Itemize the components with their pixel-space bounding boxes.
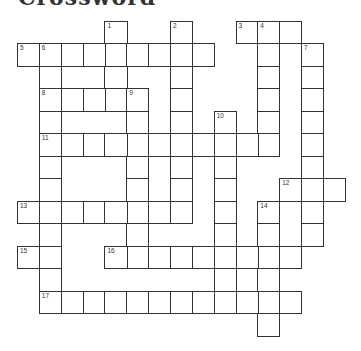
crossword-cell[interactable] xyxy=(257,43,280,67)
crossword-cell[interactable] xyxy=(170,133,193,157)
crossword-cell[interactable] xyxy=(61,43,84,67)
crossword-cell[interactable] xyxy=(126,178,149,202)
crossword-cell[interactable] xyxy=(214,246,237,270)
crossword-cell[interactable] xyxy=(61,88,84,112)
crossword-cell[interactable] xyxy=(61,133,84,157)
crossword-cell[interactable] xyxy=(170,156,193,180)
crossword-cell[interactable] xyxy=(257,313,280,337)
crossword-cell[interactable] xyxy=(214,223,237,247)
crossword-cell[interactable] xyxy=(104,43,127,67)
crossword-cell[interactable] xyxy=(257,246,280,270)
crossword-cell[interactable] xyxy=(214,133,237,157)
crossword-cell[interactable] xyxy=(39,201,62,225)
crossword-cell[interactable] xyxy=(214,178,237,202)
crossword-cell[interactable] xyxy=(39,156,62,180)
crossword-cell[interactable] xyxy=(301,133,324,157)
crossword-cell[interactable] xyxy=(126,201,149,225)
crossword-cell[interactable] xyxy=(126,246,149,270)
crossword-cell[interactable] xyxy=(192,133,215,157)
crossword-cell[interactable]: 2 xyxy=(170,21,193,45)
crossword-cell[interactable] xyxy=(257,268,280,292)
crossword-cell[interactable] xyxy=(301,201,324,225)
crossword-cell[interactable] xyxy=(257,66,280,90)
crossword-cell[interactable] xyxy=(126,223,149,247)
crossword-cell[interactable] xyxy=(192,246,215,270)
crossword-cell[interactable]: 16 xyxy=(104,246,127,270)
crossword-cell[interactable] xyxy=(257,291,280,315)
crossword-cell[interactable]: 15 xyxy=(17,246,40,270)
crossword-cell[interactable] xyxy=(192,291,215,315)
crossword-cell[interactable]: 3 xyxy=(236,21,259,45)
crossword-cell[interactable] xyxy=(170,291,193,315)
crossword-cell[interactable] xyxy=(257,88,280,112)
crossword-cell[interactable] xyxy=(126,156,149,180)
crossword-cell[interactable] xyxy=(39,268,62,292)
crossword-cell[interactable] xyxy=(148,133,171,157)
crossword-cell[interactable]: 5 xyxy=(17,43,40,67)
crossword-cell[interactable] xyxy=(214,201,237,225)
crossword-cell[interactable] xyxy=(39,223,62,247)
crossword-cell[interactable] xyxy=(104,201,127,225)
crossword-cell[interactable]: 17 xyxy=(39,291,62,315)
crossword-cell[interactable] xyxy=(323,178,346,202)
crossword-cell[interactable] xyxy=(279,291,302,315)
crossword-cell[interactable]: 9 xyxy=(126,88,149,112)
crossword-cell[interactable] xyxy=(170,111,193,135)
crossword-cell[interactable] xyxy=(236,133,259,157)
crossword-cell[interactable] xyxy=(170,178,193,202)
crossword-cell[interactable] xyxy=(214,268,237,292)
crossword-cell[interactable]: 8 xyxy=(39,88,62,112)
crossword-cell[interactable] xyxy=(126,43,149,67)
crossword-cell[interactable] xyxy=(104,133,127,157)
crossword-cell[interactable] xyxy=(301,156,324,180)
crossword-cell[interactable] xyxy=(83,43,106,67)
crossword-cell[interactable] xyxy=(257,223,280,247)
crossword-cell[interactable] xyxy=(83,201,106,225)
crossword-cell[interactable] xyxy=(279,21,302,45)
crossword-cell[interactable]: 10 xyxy=(214,111,237,135)
crossword-cell[interactable]: 6 xyxy=(39,43,62,67)
crossword-cell[interactable] xyxy=(39,111,62,135)
crossword-cell[interactable]: 12 xyxy=(279,178,302,202)
crossword-cell[interactable] xyxy=(126,111,149,135)
crossword-cell[interactable] xyxy=(301,88,324,112)
crossword-cell[interactable] xyxy=(61,201,84,225)
crossword-cell[interactable] xyxy=(126,133,149,157)
crossword-cell[interactable] xyxy=(83,291,106,315)
crossword-cell[interactable] xyxy=(170,88,193,112)
crossword-cell[interactable] xyxy=(214,291,237,315)
crossword-cell[interactable] xyxy=(104,88,127,112)
crossword-cell[interactable]: 4 xyxy=(257,21,280,45)
crossword-cell[interactable] xyxy=(39,178,62,202)
crossword-cell[interactable] xyxy=(148,246,171,270)
crossword-cell[interactable]: 1 xyxy=(104,21,127,45)
crossword-cell[interactable] xyxy=(61,291,84,315)
crossword-cell[interactable] xyxy=(236,246,259,270)
crossword-cell[interactable]: 7 xyxy=(301,43,324,67)
crossword-cell[interactable] xyxy=(192,43,215,67)
crossword-cell[interactable]: 13 xyxy=(17,201,40,225)
crossword-cell[interactable] xyxy=(126,291,149,315)
crossword-cell[interactable] xyxy=(170,246,193,270)
crossword-cell[interactable] xyxy=(257,133,280,157)
crossword-cell[interactable] xyxy=(257,111,280,135)
crossword-cell[interactable]: 11 xyxy=(39,133,62,157)
crossword-cell[interactable] xyxy=(301,223,324,247)
crossword-cell[interactable]: 14 xyxy=(257,201,280,225)
crossword-cell[interactable] xyxy=(301,66,324,90)
crossword-cell[interactable] xyxy=(301,111,324,135)
crossword-cell[interactable] xyxy=(279,246,302,270)
crossword-cell[interactable] xyxy=(170,66,193,90)
crossword-cell[interactable] xyxy=(170,43,193,67)
crossword-cell[interactable] xyxy=(39,66,62,90)
crossword-cell[interactable] xyxy=(170,201,193,225)
crossword-cell[interactable] xyxy=(39,246,62,270)
crossword-cell[interactable] xyxy=(236,291,259,315)
crossword-cell[interactable] xyxy=(83,133,106,157)
crossword-cell[interactable] xyxy=(104,66,127,90)
crossword-cell[interactable] xyxy=(214,156,237,180)
crossword-cell[interactable] xyxy=(83,88,106,112)
crossword-cell[interactable] xyxy=(148,201,171,225)
crossword-cell[interactable] xyxy=(148,43,171,67)
crossword-cell[interactable] xyxy=(301,178,324,202)
